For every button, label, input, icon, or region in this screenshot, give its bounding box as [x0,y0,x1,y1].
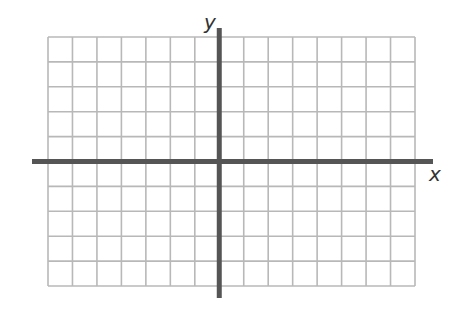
y-axis-label: y [204,12,216,32]
coordinate-plane: y x [0,0,465,312]
x-axis-label: x [429,164,441,184]
grid-and-axes [0,0,465,312]
